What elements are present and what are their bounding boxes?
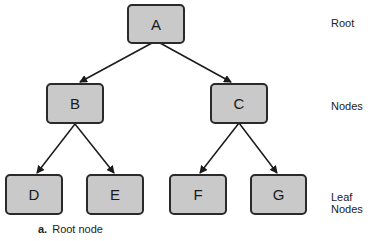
level-label-leaf: Leaf Nodes bbox=[331, 191, 385, 215]
edge-b-d bbox=[37, 124, 75, 173]
node-g: G bbox=[250, 174, 307, 215]
level-label-nodes: Nodes bbox=[331, 100, 363, 112]
edge-c-f bbox=[200, 123, 239, 173]
node-f: F bbox=[169, 174, 227, 215]
node-b: B bbox=[46, 83, 104, 124]
edge-b-e bbox=[75, 124, 114, 173]
edge-c-g bbox=[239, 123, 277, 173]
node-d: D bbox=[5, 174, 63, 215]
caption-text: Root node bbox=[52, 223, 103, 235]
node-c: C bbox=[210, 83, 268, 124]
edge-a-b bbox=[80, 43, 152, 82]
caption-marker: a. bbox=[38, 223, 47, 235]
level-label-root: Root bbox=[331, 17, 354, 29]
figure-caption: a.Root node bbox=[38, 223, 103, 235]
node-e: E bbox=[86, 174, 144, 215]
node-a: A bbox=[127, 4, 185, 44]
edge-a-c bbox=[160, 43, 231, 82]
